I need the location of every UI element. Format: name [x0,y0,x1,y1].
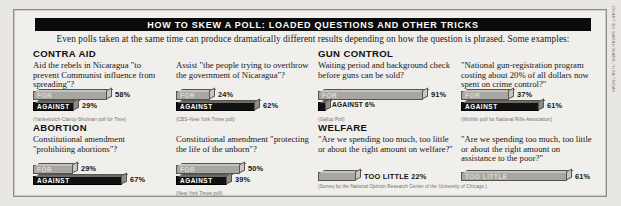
bar-value: 37% [517,90,532,99]
bar-against: AGAINST [33,176,122,185]
question-block: Aid the rebels in Nicaragua "to prevent … [33,61,169,122]
bar-value: TOO LITTLE 22% [364,172,427,181]
question-block: Constitutional amendment "prohibiting ab… [33,135,169,191]
question-columns: Aid the rebels in Nicaragua "to prevent … [33,61,314,123]
bar-row-against: AGAINST 29% [33,102,169,112]
bar-group: FOR 29% AGAINST [33,165,169,189]
bar-label: FOR [180,166,195,174]
bar-group: TOO LITTLE 22% [318,169,454,182]
bar-group: FOR 58% AGAINST [33,91,169,115]
question-block: "Are we spending too much, too little or… [461,135,597,182]
topic-abortion: ABORTION Constitutional amendment "prohi… [33,122,314,197]
bar-label: FOR [37,92,52,100]
question-text: "National gun-registration program costi… [461,61,597,90]
bar-row-against: AGAINST 61% [461,102,597,112]
question-block: Waiting period and background check befo… [318,61,454,122]
bar-row-against: AGAINST 39% [176,176,312,186]
chart-credit: CHART BY SARAH MARK / USA TODAY [607,4,619,104]
bar-group: FOR 37% AGAINST [461,91,597,115]
topic-heading: CONTRA AID [33,48,314,59]
bar-label: FOR [465,92,480,100]
question-text: Constitutional amendment "protecting the… [176,135,312,164]
bar-row-against: AGAINST 62% [176,102,312,112]
question-text: Assist "the people trying to overthrow t… [176,61,312,90]
bar-row-against: AGAINST 67% [33,176,169,186]
bar-value: AGAINST 6% [332,101,375,108]
bar-value: 61% [575,172,590,181]
bar-for: FOR [33,91,107,100]
question-text: Constitutional amendment "prohibiting ab… [33,135,169,164]
topic-heading: WELFARE [318,122,599,133]
bar-too-little [318,172,356,181]
bar-value: 91% [431,90,446,99]
topics-grid: CONTRA AID Aid the rebels in Nicaragua "… [33,48,595,196]
bar-label: FOR [180,92,195,100]
bar-value: 58% [115,90,130,99]
source-line: (Survey by the National Opinion Research… [318,184,578,189]
chart-title: HOW TO SKEW A POLL: LOADED QUESTIONS AND… [147,20,479,30]
bar-value: 24% [218,90,233,99]
chart-credit-text: CHART BY SARAH MARK / USA TODAY [611,6,616,93]
bar-value: 29% [82,101,97,110]
question-text: Waiting period and background check befo… [318,61,454,90]
bar-value: 67% [130,175,145,184]
chart-frame-inner: HOW TO SKEW A POLL: LOADED QUESTIONS AND… [17,13,603,193]
topic-contra-aid: CONTRA AID Aid the rebels in Nicaragua "… [33,48,314,123]
question-text: Aid the rebels in Nicaragua "to prevent … [33,61,169,90]
topic-gun-control: GUN CONTROL Waiting period and backgroun… [318,48,599,123]
bar-label: FOR [37,166,52,174]
question-text: "Are we spending too much, too little or… [318,135,454,166]
bar-against: AGAINST [33,102,74,111]
question-columns: Waiting period and background check befo… [318,61,599,123]
bar-for: FOR [318,91,423,100]
source-line: (New York Times poll) [176,191,312,196]
topic-welfare: WELFARE "Are we spending too much, too l… [318,122,599,197]
bar-row-for: FOR 91% [318,91,454,101]
bar-against: AGAINST [176,176,227,185]
bar-against [318,102,326,111]
topic-heading: ABORTION [33,122,314,133]
chart-title-bar: HOW TO SKEW A POLL: LOADED QUESTIONS AND… [35,18,591,31]
topic-heading: GUN CONTROL [318,48,599,59]
bar-group: FOR 24% AGAINST [176,91,312,115]
question-block: "Are we spending too much, too little or… [318,135,454,189]
infographic-poster: HOW TO SKEW A POLL: LOADED QUESTIONS AND… [0,0,621,206]
question-block: Constitutional amendment "protecting the… [176,135,312,196]
question-text: "Are we spending too much, too little or… [461,135,597,166]
bar-against: AGAINST [461,102,539,111]
bar-against: AGAINST [176,102,255,111]
bar-label: AGAINST [465,103,498,111]
bar-group: TOO LITTLE 61% [461,169,597,182]
bar-group: FOR 50% AGAINST [176,165,312,189]
bar-value: 62% [263,101,278,110]
bar-row-against: AGAINST 6% [318,102,454,112]
bar-too-little: TOO LITTLE [461,172,567,181]
bar-label: AGAINST [180,103,213,111]
bar-label: AGAINST [37,103,70,111]
bar-value: 39% [235,175,250,184]
bar-label: TOO LITTLE [465,173,508,181]
question-columns: "Are we spending too much, too little or… [318,135,599,197]
bar-group: FOR 91% AGAINST 6% [318,91,454,115]
bar-for: FOR [461,91,509,100]
question-block: Assist "the people trying to overthrow t… [176,61,312,122]
bar-value: 50% [248,164,263,173]
bar-label: AGAINST [37,177,70,185]
chart-frame: HOW TO SKEW A POLL: LOADED QUESTIONS AND… [13,9,607,197]
chart-deck: Even polls taken at the same time can pr… [35,34,591,44]
question-columns: Constitutional amendment "prohibiting ab… [33,135,314,197]
bar-for: FOR [176,91,210,100]
question-block: "National gun-registration program costi… [461,61,597,122]
bar-label: AGAINST [180,177,213,185]
bar-for: FOR [33,165,73,174]
bar-value: 29% [81,164,96,173]
bar-value: 61% [547,101,562,110]
